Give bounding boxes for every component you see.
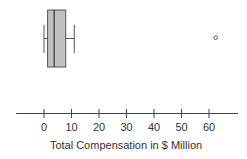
tick-label: 0 [41,121,47,133]
iqr-box [48,10,66,67]
tick-label: 50 [175,121,187,133]
tick-label: 60 [203,121,215,133]
plot-area [44,10,217,67]
x-axis-title: Total Compensation in $ Million [50,139,202,151]
boxplot-chart: 0102030405060 Total Compensation in $ Mi… [0,0,247,159]
tick-label: 20 [93,121,105,133]
x-axis: 0102030405060 [16,109,238,133]
outlier-point [214,36,218,40]
tick-label: 40 [148,121,160,133]
tick-label: 10 [65,121,77,133]
tick-label: 30 [120,121,132,133]
